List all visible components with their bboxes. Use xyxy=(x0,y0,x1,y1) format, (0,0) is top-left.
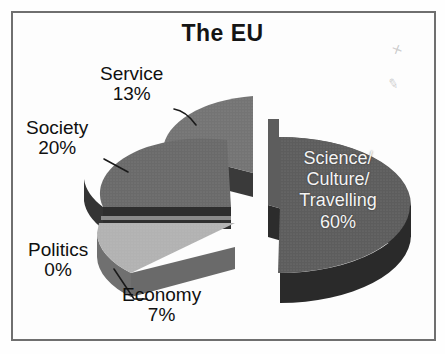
slice-label-society: Society 20% xyxy=(26,118,88,158)
slice-label-science-line2: Culture/ xyxy=(306,169,369,189)
slice-label-economy-name: Economy xyxy=(122,284,201,305)
slice-label-service-value: 13% xyxy=(100,84,163,104)
slice-label-service: Service 13% xyxy=(100,64,163,104)
slice-label-science-line3: Travelling xyxy=(299,190,376,210)
slice-label-economy-value: 7% xyxy=(122,305,201,325)
slice-label-economy: Economy 7% xyxy=(122,285,201,325)
pie-slice-society[interactable] xyxy=(84,139,231,229)
slice-label-politics-value: 0% xyxy=(28,260,88,280)
pie-chart-figure: The EU xyxy=(0,0,445,354)
slice-label-science-value: 60% xyxy=(274,212,402,233)
pie-slice-politics[interactable] xyxy=(101,216,231,220)
slice-label-service-name: Service xyxy=(100,63,163,84)
slice-label-science-culture-travelling: Science/ Culture/ Travelling 60% xyxy=(274,148,402,233)
slice-label-society-value: 20% xyxy=(26,138,88,158)
slice-label-science-line1: Science/ xyxy=(303,148,372,168)
slice-label-politics: Politics 0% xyxy=(28,240,88,280)
slice-label-society-name: Society xyxy=(26,117,88,138)
slice-label-politics-name: Politics xyxy=(28,239,88,260)
